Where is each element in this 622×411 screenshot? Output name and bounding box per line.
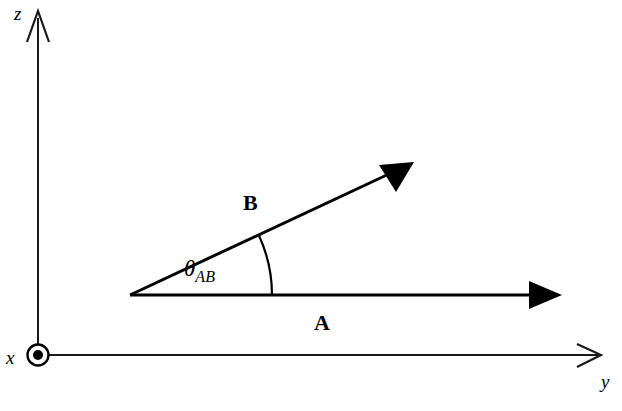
vector-a-label: A: [314, 312, 330, 334]
vector-b-label: B: [243, 192, 258, 214]
x-axis-out-of-page-icon: [28, 345, 49, 366]
angle-theta-symbol: θ: [184, 256, 195, 281]
vector-a-arrowhead-icon: [529, 281, 562, 309]
y-axis: [49, 344, 601, 367]
angle-subscript: AB: [195, 268, 215, 285]
vector-b: [130, 162, 414, 295]
z-axis: [27, 11, 49, 344]
angle-label: θAB: [184, 257, 215, 285]
x-axis-label: x: [6, 348, 14, 367]
y-axis-label: y: [601, 372, 609, 391]
vector-b-shaft: [130, 173, 391, 295]
angle-arc: [259, 235, 272, 295]
diagram-svg: [0, 0, 622, 411]
vector-diagram-canvas: z x y A B θAB: [0, 0, 622, 411]
z-axis-label: z: [14, 4, 21, 23]
vector-a: [130, 281, 562, 309]
x-axis-dot: [33, 350, 43, 360]
